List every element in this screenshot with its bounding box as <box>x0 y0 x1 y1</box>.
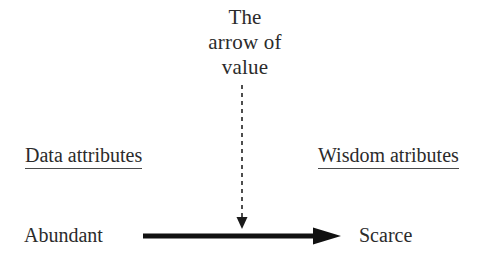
axis-label-wisdom-attributes: Wisdom atributes <box>318 144 459 169</box>
arrow-of-value-diagram: The arrow of value Data attributes Wisdo… <box>0 0 490 265</box>
endpoint-label-abundant: Abundant <box>24 224 103 246</box>
solid-right-arrow-icon <box>143 228 341 245</box>
dashed-down-arrow-icon <box>237 85 248 229</box>
axis-label-data-attributes: Data attributes <box>25 144 142 169</box>
endpoint-label-scarce: Scarce <box>359 224 412 246</box>
